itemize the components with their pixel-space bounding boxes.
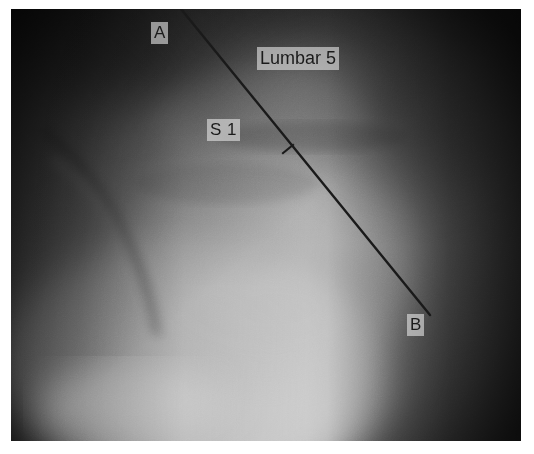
xray-image-plate: A B S 1 Lumbar 5: [11, 9, 521, 441]
screenshot-root: A B S 1 Lumbar 5: [0, 0, 534, 454]
annotation-label-point-a: A: [151, 22, 168, 44]
annotation-label-sacral-one: S 1: [207, 119, 240, 141]
annotation-label-lumbar-five: Lumbar 5: [257, 47, 339, 70]
xray-density-field: [11, 9, 521, 441]
annotation-label-point-b: B: [407, 314, 424, 336]
